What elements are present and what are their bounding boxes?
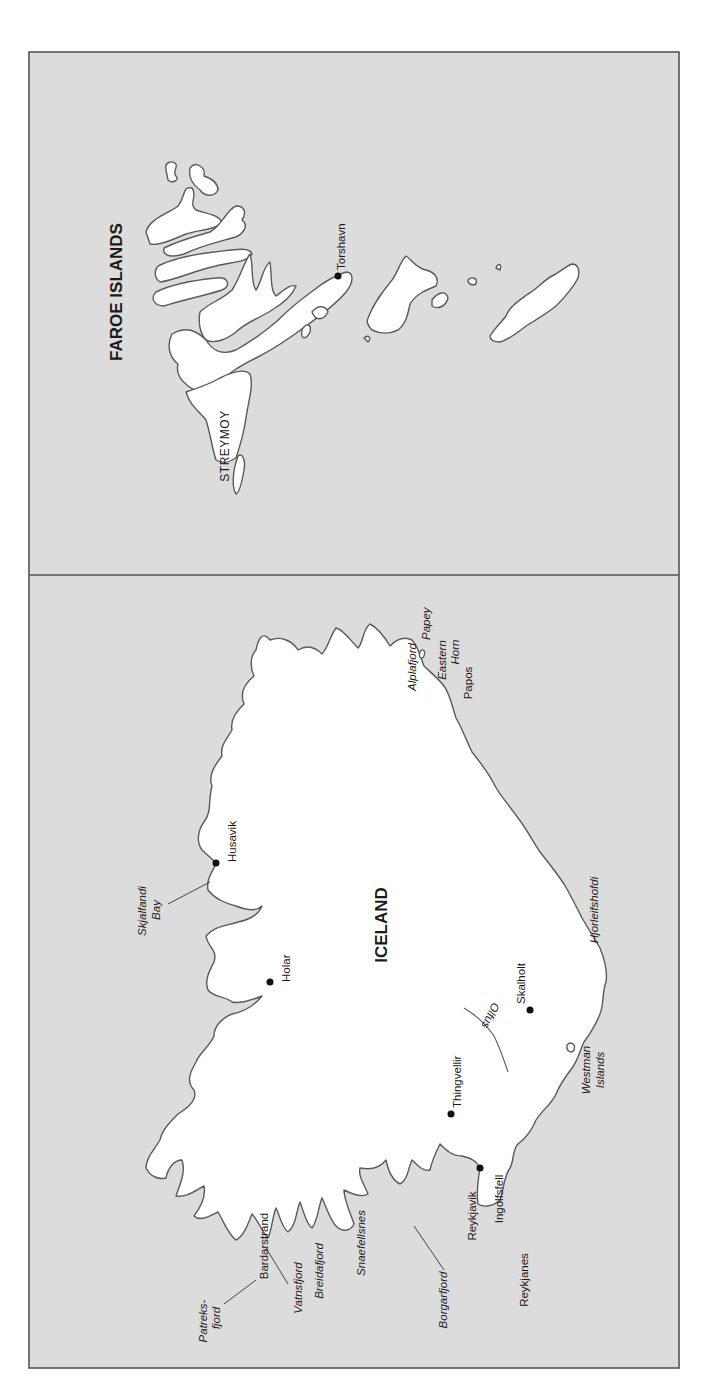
bardarstrand-label: Bardarstrand	[258, 1213, 270, 1279]
islands-label: Islands	[594, 1052, 606, 1089]
town-dot-reykjavik	[477, 1165, 484, 1172]
vatnsfjord-label: Vatnsfjord	[292, 1262, 304, 1314]
bay-label: Bay	[150, 899, 162, 920]
horn-label: Horn	[449, 640, 461, 665]
thingvellir-label: Thingvellir	[451, 1055, 463, 1108]
reykjavik-label: Reykjavik	[466, 1191, 478, 1240]
husavik-label: Husavik	[226, 821, 238, 862]
faroe-islands-title: FAROE ISLANDS	[107, 223, 126, 361]
town-dot-husavik	[213, 860, 220, 867]
ingolfsfell-label: Ingolfsfell	[493, 1175, 505, 1224]
fjord-label: fjord	[210, 1306, 222, 1329]
town-dot-skalholt	[527, 1007, 534, 1014]
skalholt-label: Skalholt	[515, 962, 527, 1004]
streymoy-label: STREYMOY	[218, 410, 232, 481]
eastern-label: Eastern	[436, 640, 448, 680]
patreks-label: Patreks-	[197, 1299, 209, 1342]
westman-islands	[567, 1043, 575, 1052]
papey-island	[419, 650, 424, 658]
borgarfjord-label: Borgarfjord	[437, 1271, 449, 1328]
map-canvas: FAROE ISLANDS STREYMOY Torshavn ICELAND …	[0, 0, 718, 1380]
iceland-title: ICELAND	[372, 887, 391, 963]
alplafjord-label: Alplafjord	[406, 642, 418, 692]
papey-label: Papey	[420, 606, 432, 640]
town-dot-torshavn	[335, 273, 342, 280]
reykjanes-label: Reykjanes	[518, 1253, 530, 1307]
breidafjord-label: Breidafjord	[313, 1243, 325, 1299]
hjorleifshofdi-label: Hjorleifshofdi	[588, 876, 600, 943]
holar-label: Holar	[280, 954, 292, 982]
papos-label: Papos	[462, 666, 474, 699]
westman-label: Westman	[580, 1046, 592, 1094]
skjalfandi-label: Skjalfandi	[136, 886, 148, 936]
town-dot-holar	[267, 979, 274, 986]
town-dot-thingvellir	[448, 1111, 455, 1118]
torshavn-label: Torshavn	[335, 223, 347, 270]
snaefellsnes-label: Snaefellsnes	[355, 1210, 367, 1276]
